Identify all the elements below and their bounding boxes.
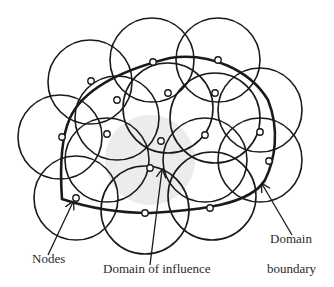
influence-circle xyxy=(168,152,256,240)
node-marker xyxy=(142,210,148,216)
domain-boundary-label-line1: Domain xyxy=(270,232,312,245)
node-marker xyxy=(212,90,218,96)
node-marker xyxy=(73,195,79,201)
nodes-label: Nodes xyxy=(32,252,65,265)
node-marker xyxy=(88,78,94,84)
node-marker xyxy=(202,132,208,138)
node-marker xyxy=(158,138,164,144)
node-marker xyxy=(266,158,272,164)
nodes-arrow-icon xyxy=(48,202,73,255)
node-marker xyxy=(114,97,120,103)
node-marker xyxy=(215,57,221,63)
domain-of-influence-label: Domain of influence xyxy=(103,262,211,275)
node-marker xyxy=(59,134,65,140)
node-marker xyxy=(257,129,263,135)
domain-boundary-label-line2: boundary xyxy=(267,262,316,275)
node-marker xyxy=(150,59,156,65)
node-marker xyxy=(147,165,153,171)
node-marker xyxy=(104,131,110,137)
node-marker xyxy=(207,205,213,211)
node-marker xyxy=(165,90,171,96)
